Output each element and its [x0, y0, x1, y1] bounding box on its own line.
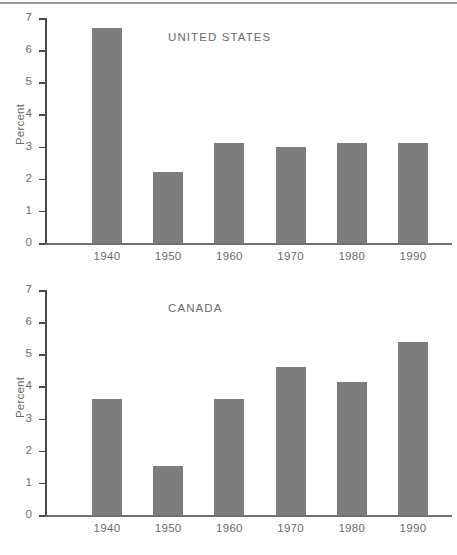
bar	[276, 367, 306, 516]
bar	[398, 342, 428, 515]
bar	[92, 28, 122, 243]
chart-panel-united-states: UNITED STATES Percent 012345671940195019…	[0, 10, 457, 285]
y-axis-tick-label: 4	[12, 380, 32, 392]
y-axis-tick-label: 2	[12, 445, 32, 457]
y-axis-tick	[39, 451, 46, 453]
y-axis-tick	[39, 290, 46, 292]
x-axis-tick-label: 1990	[388, 522, 438, 534]
x-axis-tick-label: 1940	[82, 522, 132, 534]
y-axis-tick	[39, 322, 46, 324]
x-axis-tick-label: 1940	[82, 250, 132, 262]
x-axis-tick-label: 1980	[327, 250, 377, 262]
x-axis-tick-label: 1990	[388, 250, 438, 262]
y-axis-tick	[39, 114, 46, 116]
x-axis-tick-label: 1960	[204, 522, 254, 534]
y-axis-tick-label: 5	[12, 348, 32, 360]
y-axis-tick	[39, 386, 46, 388]
y-axis-tick	[39, 483, 46, 485]
x-axis-tick-label: 1970	[266, 522, 316, 534]
y-axis-tick	[39, 211, 46, 213]
y-axis-tick	[39, 179, 46, 181]
figure-canvas: UNITED STATES Percent 012345671940195019…	[0, 0, 457, 555]
y-axis-tick-label: 7	[12, 12, 32, 24]
header-rule	[0, 2, 457, 4]
bar	[153, 172, 183, 243]
y-axis-tick	[39, 50, 46, 52]
y-axis-tick	[39, 243, 46, 245]
y-axis-tick-label: 0	[12, 509, 32, 521]
x-axis-line	[45, 515, 452, 517]
bar	[214, 143, 244, 243]
x-axis-tick-label: 1950	[143, 522, 193, 534]
y-axis-tick-label: 5	[12, 76, 32, 88]
chart-title-canada: CANADA	[168, 302, 223, 314]
y-axis-tick-label: 6	[12, 316, 32, 328]
bar	[214, 399, 244, 515]
x-axis-tick-label: 1950	[143, 250, 193, 262]
y-axis-tick-label: 3	[12, 413, 32, 425]
chart-title-united-states: UNITED STATES	[168, 31, 271, 43]
bar	[153, 466, 183, 515]
plot-area-canada: CANADA Percent 0123456719401950196019701…	[0, 285, 457, 555]
y-axis-tick-label: 2	[12, 173, 32, 185]
bar	[92, 399, 122, 515]
y-axis-tick	[39, 419, 46, 421]
x-axis-tick-label: 1980	[327, 522, 377, 534]
y-axis-tick	[39, 354, 46, 356]
plot-area-united-states: UNITED STATES Percent 012345671940195019…	[0, 10, 457, 285]
x-axis-line	[45, 243, 452, 245]
y-axis-tick	[39, 18, 46, 20]
x-axis-tick-label: 1970	[266, 250, 316, 262]
y-axis-tick-label: 0	[12, 237, 32, 249]
y-axis-tick	[39, 82, 46, 84]
y-axis-tick-label: 7	[12, 284, 32, 296]
x-axis-tick-label: 1960	[204, 250, 254, 262]
y-axis-tick	[39, 147, 46, 149]
bar	[398, 143, 428, 243]
y-axis-tick-label: 6	[12, 44, 32, 56]
chart-panel-canada: CANADA Percent 0123456719401950196019701…	[0, 285, 457, 555]
y-axis-tick	[39, 515, 46, 517]
y-axis-tick-label: 1	[12, 477, 32, 489]
bar	[276, 147, 306, 243]
y-axis-tick-label: 4	[12, 108, 32, 120]
bar	[337, 143, 367, 243]
y-axis-tick-label: 1	[12, 205, 32, 217]
y-axis-tick-label: 3	[12, 141, 32, 153]
bar	[337, 382, 367, 515]
